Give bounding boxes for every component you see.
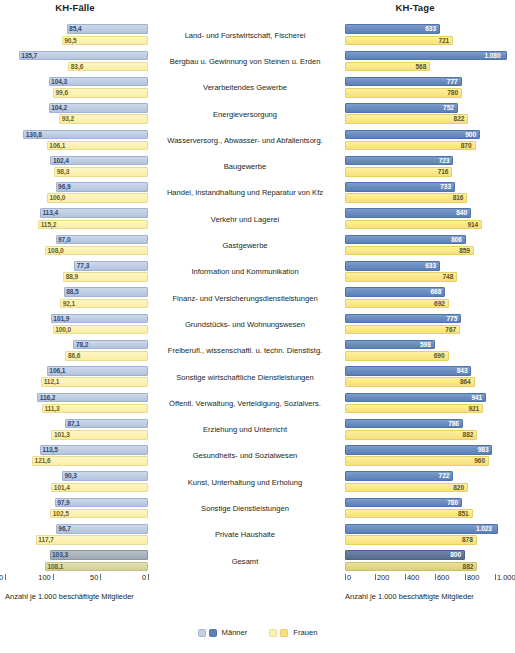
- bar-value-label: 752: [443, 103, 454, 113]
- left-panel-title: KH-Fälle: [0, 2, 150, 13]
- bar-value-label: 900: [465, 130, 476, 140]
- bar-value-label: 633: [425, 24, 436, 34]
- category-label-cell: Handel, Instandhaltung und Reparatur von…: [150, 180, 340, 206]
- bar-maenner-kh-tage: [345, 208, 471, 218]
- right-panel-bars: 900870: [345, 127, 510, 153]
- axis-tick-label: 800: [465, 573, 479, 582]
- bar-value-label: 820: [453, 483, 464, 493]
- chart-row: 116,2111,3Öffentl. Verwaltung, Verteidig…: [0, 390, 515, 416]
- bar-value-label: 106,1: [49, 366, 65, 376]
- bar-frauen-kh-tage: [345, 141, 476, 151]
- bar-value-label: 112,1: [44, 377, 60, 387]
- chart-row: 135,783,6Bergbau u. Gewinnung von Steine…: [0, 48, 515, 74]
- bar-value-label: 83,6: [71, 62, 83, 72]
- legend-swatch-dark: [280, 629, 288, 637]
- category-label: Finanz- und Versicherungsdienstleistunge…: [172, 294, 317, 303]
- axis-tick: [53, 574, 54, 580]
- category-label: Wasserversorg., Abwasser- und Abfallents…: [167, 136, 322, 145]
- category-label: Gesundheits- und Sozialwesen: [193, 451, 298, 460]
- bar-value-label: 97,9: [57, 498, 69, 508]
- chart-page: KH-Fälle KH-Tage 85,490,5Land- und Forst…: [0, 0, 515, 653]
- bar-value-label: 102,5: [53, 509, 69, 519]
- bar-maenner-kh-tage: [345, 235, 466, 245]
- right-panel-bars: 983960: [345, 443, 510, 469]
- category-label: Kunst, Unterhaltung und Erholung: [188, 478, 302, 487]
- bar-maenner-kh-tage: [345, 314, 461, 324]
- bar-value-label: 840: [456, 208, 467, 218]
- right-panel-bars: 598690: [345, 338, 510, 364]
- bar-value-label: 108,0: [48, 246, 64, 256]
- bar-frauen-kh-tage: [345, 535, 477, 545]
- bar-value-label: 668: [431, 287, 442, 297]
- right-panel-bars: 786882: [345, 416, 510, 442]
- left-panel-bars: 106,1112,1: [5, 364, 148, 390]
- bar-value-label: 103,3: [52, 550, 68, 560]
- left-panel-bars: 113,4115,2: [5, 206, 148, 232]
- bar-value-label: 690: [434, 351, 445, 361]
- category-label: Private Haushalte: [215, 530, 275, 539]
- category-label: Handel, Instandhaltung und Reparatur von…: [167, 188, 323, 197]
- left-panel-bars: 116,2111,3: [5, 390, 148, 416]
- chart-row: 78,286,6Freiberufl., wissenschaftl. u. t…: [0, 338, 515, 364]
- right-panel-bars: 752822: [345, 101, 510, 127]
- axis-tick-label: 400: [405, 573, 419, 582]
- category-label-cell: Grundstücks- und Wohnungswesen: [150, 311, 340, 337]
- left-panel-bars: 103,3108,1: [5, 548, 148, 574]
- category-label-cell: Bergbau u. Gewinnung von Steinen u. Erde…: [150, 48, 340, 74]
- category-label: Bergbau u. Gewinnung von Steinen u. Erde…: [170, 57, 321, 66]
- bar-value-label: 113,4: [42, 208, 58, 218]
- category-label-cell: Öffentl. Verwaltung, Verteidigung, Sozia…: [150, 390, 340, 416]
- bar-value-label: 806: [451, 235, 462, 245]
- bar-value-label: 843: [457, 366, 468, 376]
- category-label-cell: Sonstige wirtschaftliche Dienstleistunge…: [150, 364, 340, 390]
- bar-value-label: 723: [439, 156, 450, 166]
- left-panel-bars: 88,592,1: [5, 285, 148, 311]
- left-panel-bars: 77,388,9: [5, 259, 148, 285]
- chart-row: 90,3101,4Kunst, Unterhaltung und Erholun…: [0, 469, 515, 495]
- bar-value-label: 92,1: [63, 299, 75, 309]
- bar-value-label: 113,5: [42, 445, 58, 455]
- left-panel-bars: 135,783,6: [5, 48, 148, 74]
- bar-value-label: 716: [438, 167, 449, 177]
- bar-value-label: 77,3: [77, 261, 89, 271]
- bar-value-label: 816: [453, 193, 464, 203]
- left-axis-caption: Anzahl je 1.000 beschäftigte Mitglieder: [5, 592, 134, 601]
- right-panel-bars: 777780: [345, 75, 510, 101]
- bar-value-label: 914: [467, 220, 478, 230]
- bar-value-label: 786: [448, 419, 459, 429]
- right-panel-bars: 633748: [345, 259, 510, 285]
- bar-value-label: 135,7: [21, 51, 37, 61]
- bar-value-label: 767: [445, 325, 456, 335]
- category-label-cell: Kunst, Unterhaltung und Erholung: [150, 469, 340, 495]
- bar-value-label: 98,3: [57, 167, 69, 177]
- bar-value-label: 733: [440, 182, 451, 192]
- chart-row: 104,399,6Verarbeitendes Gewerbe777780: [0, 75, 515, 101]
- category-label-cell: Land- und Forstwirtschaft, Fischerei: [150, 22, 340, 48]
- bar-value-label: 96,7: [58, 524, 70, 534]
- bar-value-label: 598: [420, 340, 431, 350]
- axis-tick-label: 0: [142, 573, 148, 582]
- bar-value-label: 851: [458, 509, 469, 519]
- bar-frauen-kh-tage: [345, 220, 482, 230]
- category-label-cell: Gesamt: [150, 548, 340, 574]
- bar-frauen-kh-tage: [345, 430, 477, 440]
- bar-value-label: 777: [447, 77, 458, 87]
- bar-value-label: 106,0: [49, 193, 65, 203]
- bar-maenner-kh-tage: [345, 498, 462, 508]
- category-label-cell: Private Haushalte: [150, 522, 340, 548]
- bar-maenner-kh-faelle: [19, 51, 148, 61]
- bar-value-label: 780: [447, 88, 458, 98]
- chart-row: 87,1101,3Erziehung und Unterricht786882: [0, 416, 515, 442]
- bar-frauen-kh-tage: [345, 272, 457, 282]
- left-panel-bars: 78,286,6: [5, 338, 148, 364]
- axis-tick: [5, 574, 6, 580]
- left-panel-bars: 113,5121,6: [5, 443, 148, 469]
- legend-swatch-dark: [209, 629, 217, 637]
- bar-value-label: 106,1: [49, 141, 65, 151]
- bar-value-label: 90,5: [64, 36, 76, 46]
- bar-maenner-kh-tage: [345, 366, 471, 376]
- bar-value-label: 100,0: [55, 325, 71, 335]
- bar-value-label: 87,1: [67, 419, 79, 429]
- bar-frauen-kh-tage: [345, 246, 474, 256]
- category-label: Baugewerbe: [224, 162, 267, 171]
